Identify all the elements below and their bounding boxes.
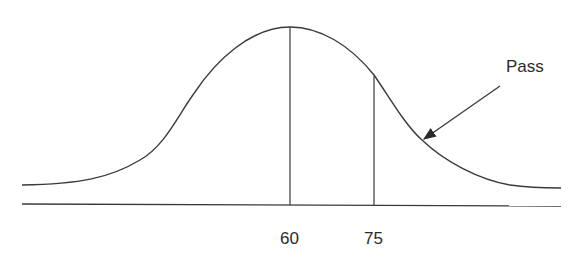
bell-curve bbox=[22, 27, 561, 188]
tick-label-60: 60 bbox=[280, 230, 299, 247]
pass-arrow bbox=[424, 86, 500, 139]
pass-label: Pass bbox=[506, 58, 544, 75]
bell-curve-diagram bbox=[0, 0, 575, 256]
tick-label-75: 75 bbox=[364, 230, 383, 247]
x-axis-baseline bbox=[22, 204, 561, 206]
